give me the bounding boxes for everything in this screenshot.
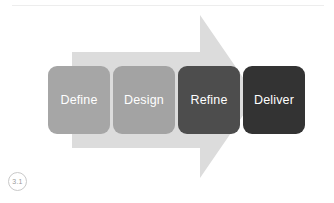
figure-number-badge: 3.1 bbox=[8, 172, 27, 191]
slide-canvas: Define Design Refine Deliver 3.1 bbox=[0, 0, 334, 203]
figure-number-text: 3.1 bbox=[12, 178, 22, 185]
process-steps: Define Design Refine Deliver bbox=[0, 0, 334, 203]
step-box-deliver[interactable]: Deliver bbox=[243, 66, 305, 134]
step-label-define: Define bbox=[60, 94, 97, 107]
step-box-refine[interactable]: Refine bbox=[178, 66, 240, 134]
step-box-design[interactable]: Design bbox=[113, 66, 175, 134]
step-label-refine: Refine bbox=[190, 94, 227, 107]
step-label-design: Design bbox=[124, 94, 164, 107]
step-label-deliver: Deliver bbox=[254, 94, 294, 107]
step-box-define[interactable]: Define bbox=[48, 66, 110, 134]
